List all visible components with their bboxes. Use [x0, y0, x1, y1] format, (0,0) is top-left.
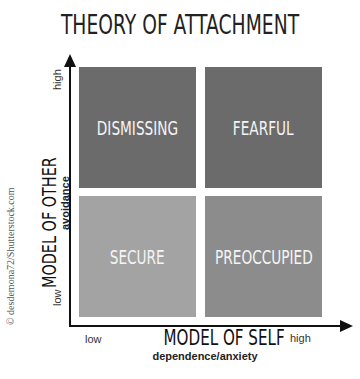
- quadrant-label: PREOCCUPIED: [215, 246, 313, 268]
- x-axis-high-label: high: [290, 332, 311, 344]
- quadrant-preoccupied: PREOCCUPIED: [205, 196, 322, 317]
- x-axis-arrow-icon: [340, 320, 353, 332]
- y-axis-low-label: low: [51, 289, 63, 306]
- y-axis-subtitle: avoidance: [59, 176, 71, 230]
- quadrant-label: FEARFUL: [233, 117, 294, 139]
- copyright-credit: © desdemona72/Shutterstock.com: [5, 187, 16, 325]
- quadrant-label: DISMISSING: [97, 117, 178, 139]
- y-axis-high-label: high: [51, 69, 63, 90]
- y-axis-title: MODEL OF OTHER: [37, 106, 61, 288]
- quadrant-secure: SECURE: [79, 196, 196, 317]
- quadrant-dismissing: DISMISSING: [79, 67, 196, 188]
- quadrant-label: SECURE: [110, 246, 165, 268]
- x-axis-low-label: low: [85, 333, 102, 345]
- x-axis-title: MODEL OF SELF: [140, 326, 270, 350]
- quadrant-fearful: FEARFUL: [205, 67, 322, 188]
- diagram-title: THEORY OF ATTACHMENT: [50, 10, 309, 40]
- x-axis-subtitle: dependence/anxiety: [140, 350, 270, 362]
